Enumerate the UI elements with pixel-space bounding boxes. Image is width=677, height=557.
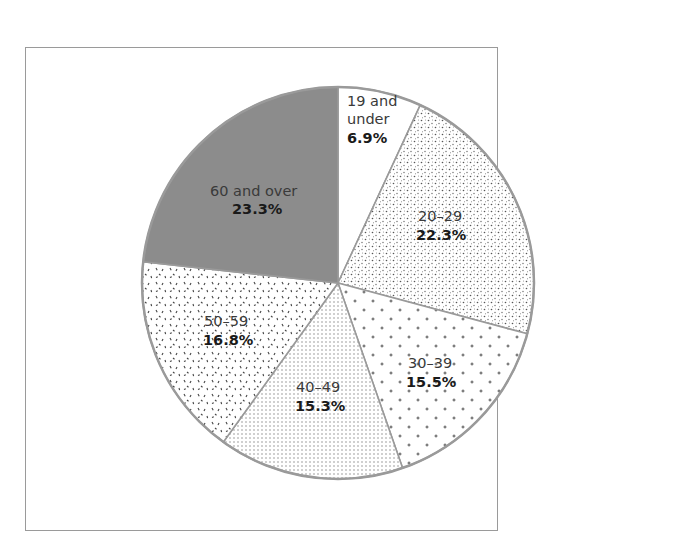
slice-label-value: 16.8%: [203, 332, 254, 348]
slice-label-value: 6.9%: [347, 130, 388, 146]
slice-label-name: under: [347, 111, 390, 127]
slice-label-name: 19 and: [347, 93, 397, 109]
pie-slices: [142, 87, 534, 479]
slice-label-value: 22.3%: [416, 227, 467, 243]
slice-label-value: 15.5%: [406, 374, 457, 390]
slice-label-name: 30–39: [408, 355, 452, 371]
slice-label-name: 20–29: [418, 208, 462, 224]
pie-chart: 19 and under 6.9% 20–29 22.3% 30–39 15.5…: [0, 0, 677, 557]
slice-label-value: 23.3%: [232, 201, 283, 217]
slice-label-name: 40–49: [296, 379, 340, 395]
slice-label-name: 60 and over: [210, 183, 297, 199]
slice-label-name: 50–59: [204, 313, 248, 329]
slice-label-value: 15.3%: [295, 398, 346, 414]
